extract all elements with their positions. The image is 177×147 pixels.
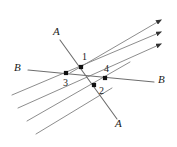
geometry-figure: AABB1234 [0,0,177,147]
transversal-a [60,40,117,119]
point-2-label: 2 [99,86,104,96]
point-1-label: 1 [82,52,87,62]
label-a-bottom: A [115,118,122,129]
transversal-lines-group [28,40,154,119]
point-3-label: 3 [63,78,68,88]
point-2 [92,83,96,87]
point-1 [79,65,83,69]
point-4 [103,76,107,80]
parallel-line-2 [12,32,161,95]
point-4-label: 4 [104,64,109,74]
label-a-top: A [53,26,60,37]
label-b-right: B [158,74,165,85]
point-3 [64,71,68,75]
label-b-left: B [14,62,21,73]
figure-canvas [0,0,177,147]
